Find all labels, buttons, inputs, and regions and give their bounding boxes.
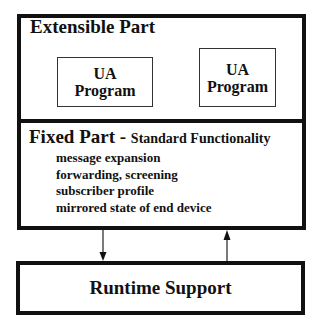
runtime-support-label: Runtime Support [90, 277, 232, 299]
down-arrow-icon [100, 230, 107, 261]
runtime-support-box: Runtime Support [16, 261, 305, 315]
up-arrow-icon [224, 230, 231, 261]
